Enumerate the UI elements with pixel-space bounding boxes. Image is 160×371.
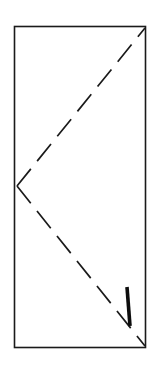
drawing-surface [0, 0, 160, 371]
door-panel [15, 27, 146, 348]
door-elevation-drawing [0, 0, 160, 371]
